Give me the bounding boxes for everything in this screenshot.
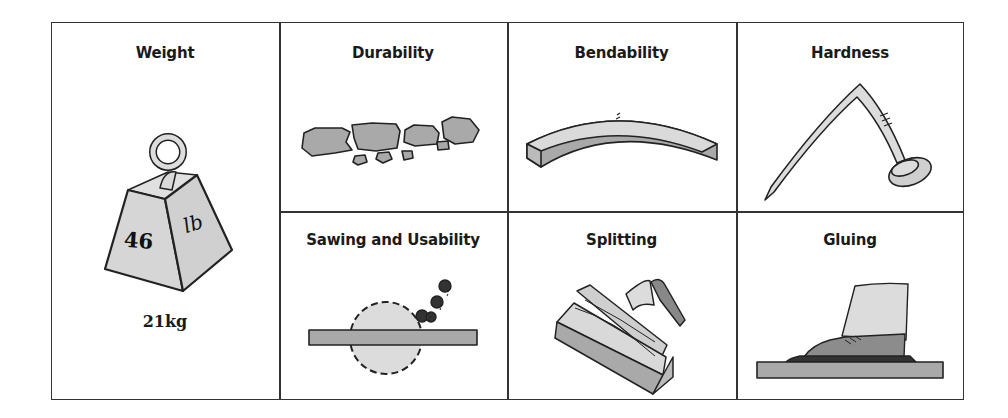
cell-durability: Durability (279, 22, 507, 211)
cell-splitting: Splitting (507, 211, 736, 400)
cell-sawing: Sawing and Usability (279, 211, 507, 400)
weight-number: 46 (123, 227, 154, 254)
broken-pieces-icon (279, 22, 507, 211)
weight-caption: 21kg (51, 312, 279, 331)
cell-bendability: Bendability (507, 22, 736, 211)
bent-beam-icon (507, 22, 736, 211)
weight-icon: 46 lb (51, 22, 279, 400)
cell-weight: Weight 46 lb 21kg (51, 22, 279, 400)
split-log-axe-icon (507, 211, 736, 400)
bent-nail-icon (736, 22, 964, 211)
cell-gluing: Gluing (736, 211, 964, 400)
shoe-on-glued-board-icon (736, 211, 964, 400)
circular-saw-icon (279, 211, 507, 400)
cell-hardness: Hardness (736, 22, 964, 211)
